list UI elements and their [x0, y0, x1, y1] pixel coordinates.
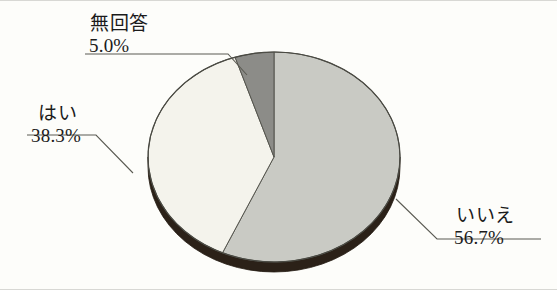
pie-chart-figure: 無回答 5.0% はい 38.3% いいえ 56.7%	[0, 0, 557, 290]
pie-label-iie-percent: 56.7%	[454, 228, 515, 247]
pie-label-iie: いいえ 56.7%	[452, 206, 515, 248]
pie-label-hai-percent: 38.3%	[31, 126, 81, 145]
pie-label-hai: はい 38.3%	[31, 104, 81, 146]
pie-label-nokaito: 無回答 5.0%	[88, 14, 149, 56]
pie-label-nokaito-category: 無回答	[90, 14, 149, 33]
pie-label-iie-category: いいえ	[456, 206, 515, 225]
pie-label-nokaito-percent: 5.0%	[89, 36, 149, 55]
pie-label-hai-category: はい	[38, 104, 81, 123]
